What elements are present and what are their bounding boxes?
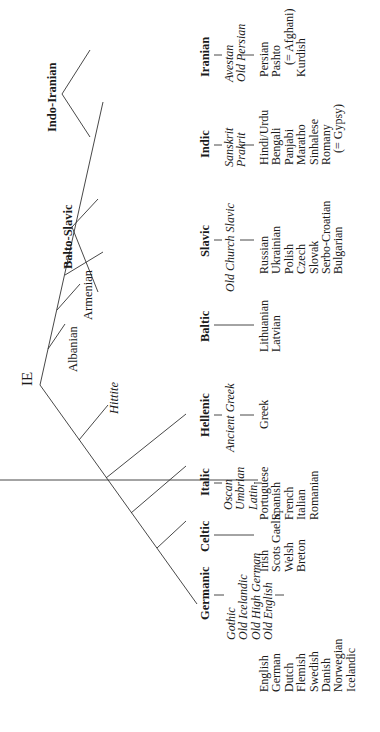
- ancient-language: Prakrit: [235, 128, 247, 167]
- fork-iranian: [62, 50, 90, 94]
- modern-language: Spanish: [270, 467, 282, 520]
- trunk-to-germanic: [40, 385, 197, 604]
- albanian-label: Albanian: [67, 326, 80, 372]
- modern-language: Romanian: [308, 467, 320, 520]
- modern-language: Latvian: [270, 300, 282, 352]
- hittite-label: Hittite: [108, 382, 121, 414]
- fork-indic: [62, 94, 90, 137]
- branch-hellenic: [106, 414, 186, 478]
- modern-language: Bengali: [270, 104, 282, 165]
- indo-iranian-label: Indo-Iranian: [46, 63, 59, 132]
- ancient-language: Old Church Slavic: [224, 203, 236, 292]
- celtic-label: Celtic: [199, 521, 212, 552]
- ie-language-family-tree: IE Hittite Albanian Armenian Balto-Slavi…: [0, 0, 380, 732]
- baltic-modern-list: Lithuanian Latvian: [258, 300, 283, 352]
- iranian-label: Iranian: [199, 37, 212, 77]
- modern-language: Kurdish: [295, 9, 307, 77]
- branch-hittite: [79, 405, 108, 440]
- baltic-label: Baltic: [199, 311, 212, 342]
- hellenic-modern-list: Greek: [258, 400, 270, 429]
- ancient-language: Old Icelandic: [237, 553, 249, 640]
- italic-modern-list: Portuguese Spanish French Italian Romani…: [258, 467, 320, 520]
- modern-language: Maratho: [295, 104, 307, 165]
- hellenic-label: Hellenic: [199, 393, 212, 437]
- fork-slavic: [72, 199, 98, 227]
- modern-language: Ukrainian: [270, 201, 282, 274]
- slavic-modern-list: Russian Ukrainian Polish Czech Slovak Se…: [258, 201, 345, 274]
- celtic-modern-list: Irish Scots Gaelic Welsh Breton: [258, 512, 308, 572]
- modern-language: Flemish: [295, 639, 307, 692]
- hellenic-ancient-list: Ancient Greek: [224, 383, 236, 452]
- modern-language: Icelandic: [345, 639, 357, 692]
- modern-language: Czech: [295, 201, 307, 274]
- indic-modern-list: Hindi/Urdu Bengali Panjabi Maratho Sinha…: [258, 104, 345, 165]
- italic-label: Italic: [199, 468, 212, 496]
- branch-italic: [131, 466, 186, 513]
- armenian-label: Armenian: [82, 270, 95, 320]
- modern-language: German: [270, 639, 282, 692]
- germanic-modern-list: English German Dutch Flemish Swedish Dan…: [258, 639, 357, 692]
- modern-language-note: (= Gypsy): [332, 104, 344, 165]
- modern-language: Bulgarian: [332, 201, 344, 274]
- modern-language: Italian: [295, 467, 307, 520]
- ancient-language: Old Persian: [235, 24, 247, 82]
- iranian-ancient-list: Avestan Old Persian: [223, 24, 248, 82]
- ancient-language: Ancient Greek: [224, 383, 236, 452]
- iranian-modern-list: Persian Pashto (= Afghani) Kurdish: [258, 9, 308, 77]
- balto-slavic-label: Balto-Slavic: [62, 204, 75, 269]
- indic-label: Indic: [199, 130, 212, 158]
- slavic-ancient-list: Old Church Slavic: [224, 203, 236, 292]
- italic-ancient-list: Oscan Umbrian Latin: [222, 467, 259, 510]
- modern-language: Norwegian: [332, 639, 344, 692]
- root-ie-label: IE: [20, 372, 35, 386]
- germanic-label: Germanic: [199, 567, 212, 620]
- ancient-language: Umbrian: [234, 467, 246, 510]
- modern-language: Scots Gaelic: [270, 512, 282, 572]
- modern-language: Breton: [295, 512, 307, 572]
- branch-celtic: [157, 521, 186, 548]
- modern-language: Greek: [258, 400, 270, 429]
- slavic-label: Slavic: [199, 225, 212, 257]
- modern-language: Pashto: [270, 9, 282, 77]
- indic-ancient-list: Sanskrit Prakrit: [223, 128, 248, 167]
- branch-armenian: [57, 284, 80, 310]
